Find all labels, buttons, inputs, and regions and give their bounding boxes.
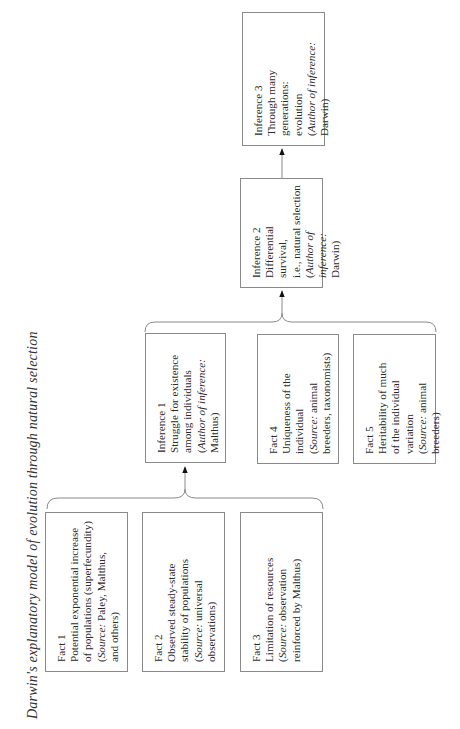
- inference-2-box: Inference 2 Differential survival, i.e.,…: [240, 178, 323, 288]
- fact-4-body: Uniqueness of the individual: [280, 341, 306, 454]
- fact-5-box: Fact 5 Heritability of much of the indiv…: [353, 334, 436, 464]
- fact-5-heading: Fact 5: [363, 341, 376, 454]
- fact-1-body: Potential exponential increase of popula…: [68, 519, 94, 662]
- fact-4-heading: Fact 4: [267, 341, 280, 454]
- inference-2-body: Differential survival, i.e., natural sel…: [263, 185, 303, 278]
- inference-3-heading: Inference 3: [252, 19, 265, 136]
- inference-3-author: (Author of inference: Darwin): [305, 19, 331, 136]
- fact-1-source: (Source: Paley, Malthus, and others): [95, 519, 121, 662]
- inference-1-box: Inference 1 Struggle for existence among…: [145, 333, 226, 463]
- fact-3-box: Fact 3 Limitation of resources (Source: …: [240, 512, 323, 672]
- fact-1-heading: Fact 1: [55, 519, 68, 662]
- bracket-facts-1-3: [47, 489, 323, 509]
- inference-1-author: (Author of inference: Malthus): [195, 340, 221, 453]
- fact-5-source: (Source: animal breeders): [416, 341, 442, 454]
- inference-1-body: Struggle for existence among individuals: [168, 340, 194, 453]
- fact-3-body: Limitation of resources: [263, 519, 276, 662]
- diagram-rotated-page: Darwin's explanatory model of evolution …: [0, 0, 460, 729]
- inference-1-heading: Inference 1: [155, 340, 168, 453]
- fact-2-box: Fact 2 Observed steady-state stability o…: [142, 512, 225, 672]
- fact-2-source: (Source: universal observations): [192, 519, 218, 662]
- fact-3-heading: Fact 3: [250, 519, 263, 662]
- fact-5-body: Heritability of much of the individual v…: [376, 341, 416, 454]
- inference-3-body: Through many generations: evolution: [265, 19, 305, 136]
- fact-1-box: Fact 1 Potential exponential increase of…: [45, 512, 128, 672]
- bracket-inference1-fact4-fact5: [145, 313, 436, 332]
- fact-4-box: Fact 4 Uniqueness of the individual (Sou…: [257, 334, 339, 464]
- inference-2-heading: Inference 2: [250, 185, 263, 278]
- fact-2-heading: Fact 2: [152, 519, 165, 662]
- fact-4-source: (Source: animal breeders, taxonomists): [307, 341, 333, 454]
- fact-3-source: (Source: observation reinforced by Malth…: [276, 519, 302, 662]
- fact-2-body: Observed steady-state stability of popul…: [165, 519, 191, 662]
- inference-2-author: (Author of inference: Darwin): [303, 185, 343, 278]
- inference-3-box: Inference 3 Through many generations: ev…: [242, 12, 325, 146]
